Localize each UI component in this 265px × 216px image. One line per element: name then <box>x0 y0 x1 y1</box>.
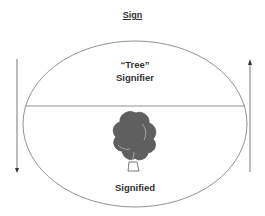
signifier-section: “Tree” Signifier <box>85 58 185 84</box>
signified-label: Signified <box>85 182 185 193</box>
arrow-down-icon <box>15 59 19 173</box>
signifier-label: Signifier <box>85 71 185 84</box>
diagram-title: Sign <box>0 10 265 20</box>
signifier-word: “Tree” <box>85 58 185 71</box>
arrow-up-icon <box>248 59 252 172</box>
tree-icon <box>113 112 156 171</box>
